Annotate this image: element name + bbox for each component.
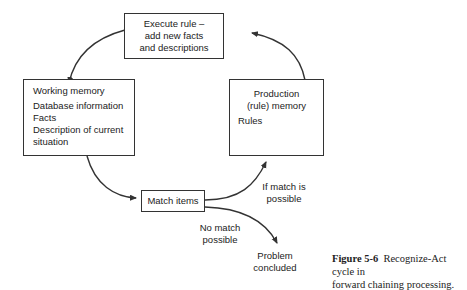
edge-execute-to-working-memory: [69, 30, 125, 83]
if-match-line-1: If match is: [254, 181, 314, 193]
match-items-label: Match items: [147, 195, 198, 206]
execute-rule-line-2: add new facts: [125, 30, 223, 42]
caption-line-1: Figure 5-6 Recognize-Act cycle in: [332, 252, 467, 278]
no-match-line-1: No match: [195, 222, 245, 234]
if-match-line-2: possible: [254, 193, 314, 205]
edge-production-memory-to-execute: [252, 33, 305, 80]
execute-rule-node: Execute rule – add new facts and descrip…: [124, 13, 224, 59]
production-memory-title-line-2: (rule) memory: [230, 100, 323, 112]
working-memory-item: Database information: [33, 100, 134, 112]
working-memory-item: Facts: [33, 112, 134, 124]
problem-concluded-line-1: Problem: [245, 250, 305, 262]
match-items-node: Match items: [141, 190, 205, 212]
edge-working-memory-to-match: [87, 156, 136, 198]
production-memory-item: Rules: [230, 115, 323, 127]
caption-text-2: forward chaining processing.: [332, 278, 467, 290]
execute-rule-line-3: and descriptions: [125, 42, 223, 54]
production-memory-node: Production (rule) memory Rules: [229, 79, 324, 156]
problem-concluded-line-2: concluded: [245, 262, 305, 274]
figure-number: Figure 5-6: [332, 253, 378, 264]
if-match-possible-label: If match is possible: [254, 181, 314, 205]
working-memory-item: situation: [33, 136, 134, 148]
execute-rule-line-1: Execute rule –: [125, 18, 223, 30]
no-match-possible-label: No match possible: [195, 222, 245, 246]
no-match-line-2: possible: [195, 234, 245, 246]
production-memory-title-line-1: Production: [230, 88, 323, 100]
working-memory-item: Description of current: [33, 124, 134, 136]
recognize-act-cycle-diagram: Execute rule – add new facts and descrip…: [0, 0, 467, 290]
working-memory-title: Working memory: [33, 85, 134, 97]
problem-concluded-node: Problem concluded: [245, 250, 305, 274]
figure-caption: Figure 5-6 Recognize-Act cycle in forwar…: [332, 252, 467, 290]
working-memory-node: Working memory Database information Fact…: [23, 79, 135, 156]
